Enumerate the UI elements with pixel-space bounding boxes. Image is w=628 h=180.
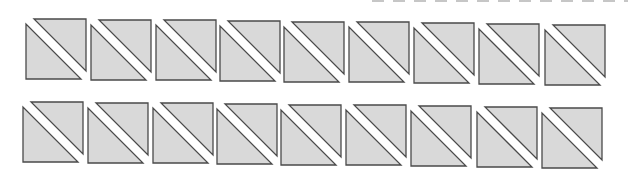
- split-square: [479, 24, 539, 84]
- split-square: [217, 104, 277, 164]
- split-square: [26, 19, 86, 79]
- split-square: [346, 105, 406, 165]
- split-square: [156, 20, 216, 80]
- squares-group: [23, 19, 605, 168]
- split-square: [349, 22, 409, 82]
- split-square: [284, 22, 344, 82]
- split-square: [91, 20, 151, 80]
- split-square: [23, 102, 83, 162]
- split-squares-diagram: [0, 0, 628, 180]
- split-square: [411, 106, 471, 166]
- split-square: [88, 103, 148, 163]
- split-square: [414, 23, 474, 83]
- split-square: [542, 108, 602, 168]
- split-square: [281, 105, 341, 165]
- split-square: [477, 107, 537, 167]
- split-square: [545, 25, 605, 85]
- split-square: [153, 103, 213, 163]
- split-square: [220, 21, 280, 81]
